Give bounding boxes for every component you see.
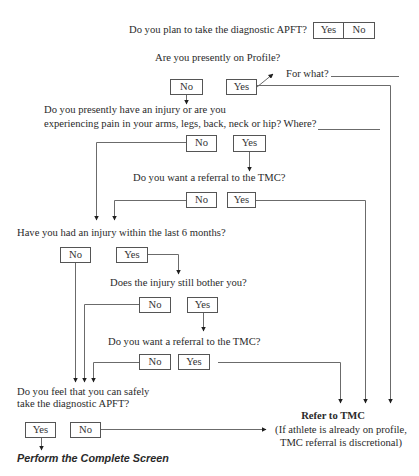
- q6-question: Does the injury still bother you?: [110, 277, 247, 289]
- q5-question: Have you had an injury within the last 6…: [17, 227, 226, 239]
- q2-for-what-label: For what?: [286, 68, 329, 80]
- q4-no-button[interactable]: No: [186, 192, 217, 208]
- q7-question: Do you want a referral to the TMC?: [108, 336, 260, 348]
- outcome-refer-title: Refer to TMC: [283, 410, 383, 422]
- q7-yes-button[interactable]: Yes: [178, 354, 210, 370]
- q8-yes-button[interactable]: Yes: [25, 422, 56, 438]
- q3-yes-button[interactable]: Yes: [233, 135, 266, 152]
- q1-yes-button[interactable]: Yes: [313, 22, 344, 39]
- q8-question-line2: take the diagnostic APFT?: [17, 398, 129, 410]
- q3-no-button[interactable]: No: [186, 135, 217, 152]
- q3-question-line1: Do you presently have an injury or are y…: [44, 104, 226, 116]
- q4-question: Do you want a referral to the TMC?: [133, 172, 285, 184]
- q5-yes-button[interactable]: Yes: [116, 247, 148, 263]
- q6-yes-button[interactable]: Yes: [187, 297, 218, 313]
- q2-question: Are you presently on Profile?: [155, 52, 280, 64]
- q5-no-button[interactable]: No: [60, 247, 91, 263]
- q1-no-button[interactable]: No: [343, 22, 375, 39]
- q8-question-line1: Do you feel that you can safely: [17, 386, 149, 398]
- q1-question: Do you plan to take the diagnostic APFT?: [129, 24, 307, 36]
- q4-yes-button[interactable]: Yes: [227, 192, 256, 208]
- outcome-perform-complete-screen: Perform the Complete Screen: [17, 452, 169, 464]
- q6-no-button[interactable]: No: [139, 297, 171, 313]
- outcome-refer-note-line1: (If athlete is already on profile,: [266, 424, 416, 436]
- q8-no-button[interactable]: No: [70, 422, 101, 438]
- q2-no-button[interactable]: No: [170, 79, 203, 95]
- q2-yes-button[interactable]: Yes: [226, 79, 257, 95]
- q3-question-line2: experiencing pain in your arms, legs, ba…: [44, 118, 317, 130]
- q7-no-button[interactable]: No: [139, 354, 171, 370]
- outcome-refer-note-line2: TMC referral is discretional): [266, 437, 416, 449]
